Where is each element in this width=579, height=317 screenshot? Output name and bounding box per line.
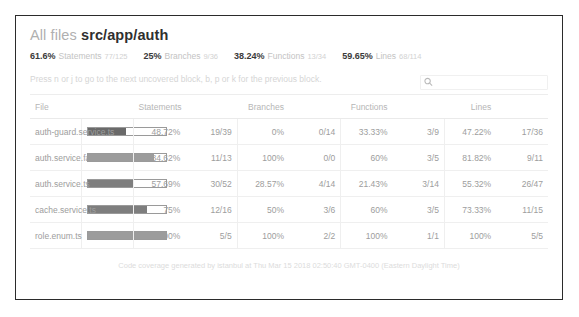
- lines-pct-cell: 55.32%: [444, 171, 496, 197]
- statements-pct-cell: 100%: [134, 223, 186, 249]
- coverage-report-frame: All files src/app/auth 61.6% Statements …: [15, 15, 563, 300]
- coverage-bar-fill: [88, 180, 133, 187]
- stat-lines-pct: 59.65%: [342, 51, 373, 62]
- branches-abs-cell: 3/6: [289, 197, 341, 223]
- statements-pct-cell: 84.62%: [134, 145, 186, 171]
- stat-functions-fraction: 13/34: [307, 51, 326, 62]
- breadcrumb-all-files[interactable]: All files: [30, 27, 77, 43]
- statements-abs-cell: 12/16: [185, 197, 237, 223]
- report-body: All files src/app/auth 61.6% Statements …: [16, 16, 562, 271]
- column-header-functions[interactable]: Functions: [341, 102, 393, 119]
- stat-branches: 25% Branches 9/36: [143, 51, 218, 62]
- lines-abs-cell: 11/15: [496, 197, 548, 223]
- statements-abs-cell: 19/39: [185, 119, 237, 145]
- functions-pct-cell: 21.43%: [341, 171, 393, 197]
- stat-functions-pct: 38.24%: [234, 51, 265, 62]
- stat-branches-label: Branches: [165, 51, 201, 62]
- breadcrumb-current-path: src/app/auth: [81, 27, 168, 43]
- branches-abs-cell: 0/14: [289, 119, 341, 145]
- filter-wrap: [420, 71, 548, 86]
- header-divider: [30, 94, 548, 95]
- table-header: File Statements Branches Functions Lines: [30, 102, 548, 119]
- statements-abs-cell: 30/52: [185, 171, 237, 197]
- branches-pct-cell: 100%: [237, 145, 289, 171]
- functions-abs-cell: 3/5: [393, 145, 445, 171]
- functions-abs-cell: 3/14: [393, 171, 445, 197]
- table-row[interactable]: auth.service.ts57.69%30/5228.57%4/1421.4…: [30, 171, 548, 197]
- branches-abs-cell: 2/2: [289, 223, 341, 249]
- table-row[interactable]: role.enum.ts100%5/5100%2/2100%1/1100%5/5: [30, 223, 548, 249]
- stat-statements-pct: 61.6%: [30, 51, 56, 62]
- table-body: auth-guard.service.ts48.72%19/390%0/1433…: [30, 119, 548, 249]
- branches-abs-cell: 4/14: [289, 171, 341, 197]
- statements-pct-cell: 57.69%: [134, 171, 186, 197]
- stat-functions: 38.24% Functions 13/34: [234, 51, 326, 62]
- branches-pct-cell: 28.57%: [237, 171, 289, 197]
- keyboard-hint: Press n or j to go to the next uncovered…: [30, 73, 322, 85]
- search-input[interactable]: [420, 75, 548, 90]
- table-row[interactable]: cache.service.ts75%12/1650%3/660%3/573.3…: [30, 197, 548, 223]
- lines-abs-cell: 5/5: [496, 223, 548, 249]
- column-header-statements-bar: [82, 102, 134, 119]
- statements-pct-cell: 48.72%: [134, 119, 186, 145]
- lines-pct-cell: 73.33%: [444, 197, 496, 223]
- column-header-branches-abs: [289, 102, 341, 119]
- file-name-cell[interactable]: auth-guard.service.ts: [30, 119, 82, 145]
- functions-abs-cell: 3/9: [393, 119, 445, 145]
- stat-statements-fraction: 77/125: [105, 51, 128, 62]
- hint-row: Press n or j to go to the next uncovered…: [30, 71, 548, 86]
- column-header-branches[interactable]: Branches: [237, 102, 289, 119]
- file-name-cell[interactable]: cache.service.ts: [30, 197, 82, 223]
- functions-abs-cell: 1/1: [393, 223, 445, 249]
- statements-abs-cell: 5/5: [185, 223, 237, 249]
- branches-pct-cell: 100%: [237, 223, 289, 249]
- stat-lines: 59.65% Lines 68/114: [342, 51, 421, 62]
- branches-pct-cell: 50%: [237, 197, 289, 223]
- stat-statements-label: Statements: [59, 51, 102, 62]
- stat-branches-pct: 25%: [143, 51, 161, 62]
- file-name-cell[interactable]: role.enum.ts: [30, 223, 82, 249]
- report-footer: Code coverage generated by istanbul at T…: [30, 261, 548, 271]
- table-row[interactable]: auth-guard.service.ts48.72%19/390%0/1433…: [30, 119, 548, 145]
- column-header-functions-abs: [393, 102, 445, 119]
- functions-pct-cell: 60%: [341, 145, 393, 171]
- table-row[interactable]: auth.service.fake.ts84.62%11/13100%0/060…: [30, 145, 548, 171]
- coverage-summary-table: File Statements Branches Functions Lines…: [30, 102, 548, 249]
- functions-pct-cell: 60%: [341, 197, 393, 223]
- statements-pct-cell: 75%: [134, 197, 186, 223]
- functions-abs-cell: 3/5: [393, 197, 445, 223]
- column-header-statements-abs: [185, 102, 237, 119]
- stat-lines-fraction: 68/114: [399, 51, 421, 62]
- functions-pct-cell: 33.33%: [341, 119, 393, 145]
- column-header-statements[interactable]: Statements: [134, 102, 186, 119]
- stat-branches-fraction: 9/36: [203, 51, 218, 62]
- coverage-summary-stats: 61.6% Statements 77/125 25% Branches 9/3…: [30, 51, 548, 62]
- lines-abs-cell: 26/47: [496, 171, 548, 197]
- column-header-file[interactable]: File: [30, 102, 82, 119]
- table-header-row: File Statements Branches Functions Lines: [30, 102, 548, 119]
- page-title: All files src/app/auth: [30, 26, 548, 44]
- functions-pct-cell: 100%: [341, 223, 393, 249]
- file-name-cell[interactable]: auth.service.fake.ts: [30, 145, 82, 171]
- lines-pct-cell: 47.22%: [444, 119, 496, 145]
- lines-abs-cell: 17/36: [496, 119, 548, 145]
- column-header-lines[interactable]: Lines: [444, 102, 496, 119]
- coverage-bar-cell: [82, 223, 134, 249]
- stat-statements: 61.6% Statements 77/125: [30, 51, 127, 62]
- lines-pct-cell: 81.82%: [444, 145, 496, 171]
- lines-abs-cell: 9/11: [496, 145, 548, 171]
- lines-pct-cell: 100%: [444, 223, 496, 249]
- stat-lines-label: Lines: [376, 51, 396, 62]
- statements-abs-cell: 11/13: [185, 145, 237, 171]
- branches-pct-cell: 0%: [237, 119, 289, 145]
- file-name-cell[interactable]: auth.service.ts: [30, 171, 82, 197]
- stat-functions-label: Functions: [268, 51, 305, 62]
- column-header-lines-abs: [496, 102, 548, 119]
- branches-abs-cell: 0/0: [289, 145, 341, 171]
